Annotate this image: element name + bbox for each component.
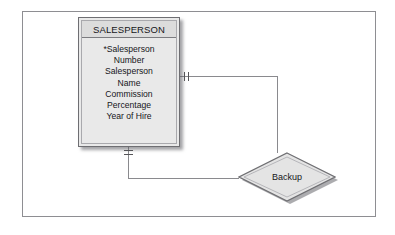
cardinality-one-tick-upper-a <box>184 72 185 81</box>
entity-header: SALESPERSON <box>82 21 176 38</box>
cardinality-one-tick-upper-b <box>188 72 189 81</box>
cardinality-one-tick-lower-a <box>124 150 133 151</box>
entity-salesperson[interactable]: SALESPERSON *Salesperson Number Salesper… <box>78 17 180 147</box>
relationship-backup[interactable]: Backup <box>238 152 336 202</box>
diagram-canvas: SALESPERSON *Salesperson Number Salesper… <box>0 0 395 235</box>
entity-attribute: Salesperson Name <box>105 66 153 88</box>
entity-attribute-list: *Salesperson Number Salesperson Name Com… <box>83 42 175 142</box>
entity-attribute: Year of Hire <box>106 111 151 122</box>
entity-attribute: *Salesperson Number <box>103 44 154 66</box>
connector-lower-horizontal <box>128 178 239 179</box>
cardinality-one-tick-lower-b <box>124 154 133 155</box>
connector-lower-vertical <box>128 147 129 179</box>
relationship-diamond-shape <box>238 152 336 202</box>
connector-upper-horizontal <box>180 76 278 77</box>
entity-title: SALESPERSON <box>93 24 165 35</box>
connector-upper-vertical <box>277 76 278 153</box>
entity-attribute: Commission Percentage <box>105 89 152 111</box>
